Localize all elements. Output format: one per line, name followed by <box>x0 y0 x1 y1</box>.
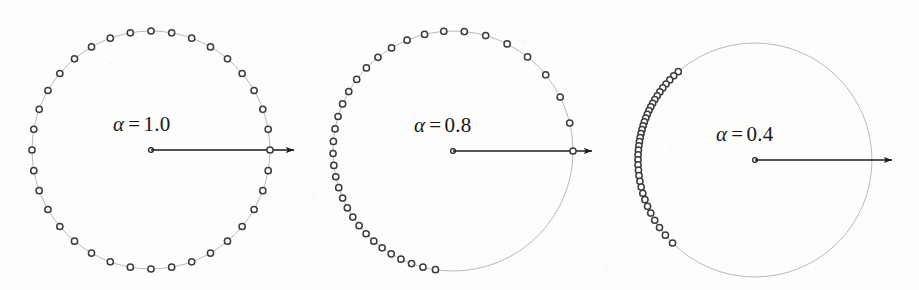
point-marker <box>408 261 414 267</box>
point-marker <box>461 28 467 34</box>
point-marker <box>388 45 394 51</box>
alpha-label-1: α=0.8 <box>414 113 472 138</box>
point-marker <box>45 87 51 93</box>
alpha-value: 0.4 <box>746 122 773 146</box>
point-marker <box>239 223 245 229</box>
point-marker <box>169 264 175 270</box>
point-marker <box>169 30 175 36</box>
point-marker <box>644 203 650 209</box>
point-marker <box>36 188 42 194</box>
equals-sign: = <box>426 113 444 137</box>
point-marker <box>88 250 94 256</box>
figure-root: α=1.0α=0.8α=0.4 <box>0 0 919 290</box>
point-marker <box>251 87 257 93</box>
point-marker <box>45 206 51 212</box>
point-marker <box>107 35 113 41</box>
point-marker <box>127 30 133 36</box>
point-marker-group <box>635 69 681 247</box>
point-marker <box>57 223 63 229</box>
equals-sign: = <box>125 112 143 136</box>
point-marker <box>669 240 675 246</box>
point-marker <box>371 238 377 244</box>
point-marker <box>398 256 404 262</box>
point-marker <box>340 195 346 201</box>
point-marker <box>363 65 369 71</box>
point-marker <box>557 94 563 100</box>
point-marker <box>336 185 342 191</box>
point-marker <box>127 264 133 270</box>
panel-alpha-04 <box>635 43 892 277</box>
alpha-value: 0.8 <box>444 113 471 137</box>
point-marker <box>31 126 37 132</box>
point-marker <box>432 267 438 273</box>
point-marker <box>189 259 195 265</box>
alpha-symbol: α <box>414 113 426 137</box>
point-marker <box>346 88 352 94</box>
point-marker <box>356 223 362 229</box>
point-marker <box>148 28 154 34</box>
point-marker <box>441 28 447 34</box>
point-marker <box>207 44 213 50</box>
point-marker <box>504 41 510 47</box>
point-marker <box>340 101 346 107</box>
point-marker <box>570 148 576 154</box>
point-marker <box>567 120 573 126</box>
point-marker <box>404 37 410 43</box>
point-marker <box>344 205 350 211</box>
point-marker <box>483 32 489 38</box>
point-marker <box>224 56 230 62</box>
alpha-label-2: α=0.4 <box>716 122 774 147</box>
alpha-symbol: α <box>716 122 728 146</box>
point-marker <box>239 70 245 76</box>
point-marker <box>71 238 77 244</box>
point-marker <box>107 259 113 265</box>
point-marker <box>71 56 77 62</box>
point-marker <box>251 206 257 212</box>
point-marker <box>224 238 230 244</box>
point-marker <box>330 138 336 144</box>
point-marker <box>354 76 360 82</box>
point-marker <box>350 214 356 220</box>
equals-sign: = <box>728 122 746 146</box>
point-marker <box>524 54 530 60</box>
point-marker <box>648 210 654 216</box>
point-marker <box>656 225 662 231</box>
panel-alpha-08 <box>330 28 592 273</box>
point-marker <box>335 113 341 119</box>
point-marker <box>379 245 385 251</box>
point-marker <box>260 188 266 194</box>
point-marker <box>29 147 35 153</box>
point-marker <box>88 44 94 50</box>
point-marker <box>420 264 426 270</box>
point-marker <box>148 266 154 272</box>
point-marker <box>642 197 648 203</box>
point-marker <box>265 168 271 174</box>
alpha-value: 1.0 <box>143 112 170 136</box>
point-marker <box>333 174 339 180</box>
point-marker <box>388 251 394 257</box>
point-marker <box>36 106 42 112</box>
alpha-symbol: α <box>113 112 125 136</box>
point-marker <box>640 190 646 196</box>
point-marker <box>638 184 644 190</box>
point-marker <box>652 217 658 223</box>
point-marker <box>57 70 63 76</box>
alpha-label-0: α=1.0 <box>113 112 171 137</box>
panel-alpha-1 <box>29 28 294 272</box>
point-marker <box>189 35 195 41</box>
point-marker <box>363 231 369 237</box>
point-marker <box>260 106 266 112</box>
point-marker <box>265 126 271 132</box>
point-marker <box>332 126 338 132</box>
point-marker <box>207 250 213 256</box>
point-marker <box>331 162 337 168</box>
point-marker <box>31 168 37 174</box>
point-marker <box>330 150 336 156</box>
point-marker <box>662 232 668 238</box>
circles-figure-svg <box>0 0 919 290</box>
point-marker <box>267 147 273 153</box>
point-marker <box>543 72 549 78</box>
point-marker <box>421 31 427 37</box>
point-marker <box>375 54 381 60</box>
